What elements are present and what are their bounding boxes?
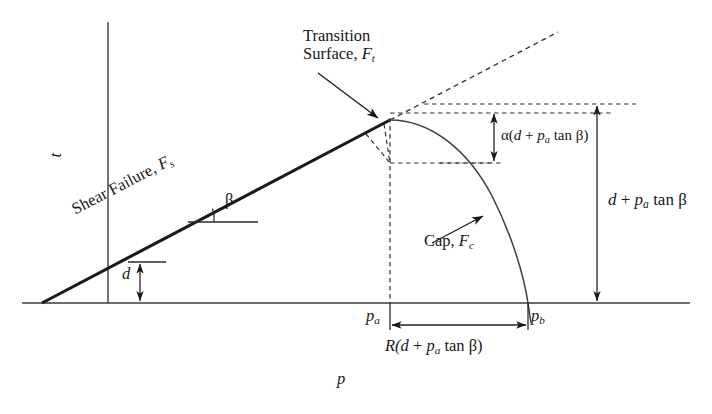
transition-surface-subscript: t <box>372 53 375 65</box>
r-p: p <box>426 336 434 355</box>
transition-surface-symbol: F <box>362 44 372 63</box>
pb-symbol: p <box>531 306 539 325</box>
beta-angle-label: β <box>225 191 233 209</box>
cap-symbol: F <box>459 231 469 250</box>
alpha-close: ) <box>583 127 588 143</box>
cap-label: Cap, Fc <box>424 232 474 252</box>
transition-leader-arrow <box>318 73 378 118</box>
height-dimension-label: d + pa tan β <box>608 190 687 212</box>
yield-surface-figure: Transition Surface, Ft Shear Failure, Fs… <box>0 0 712 414</box>
height-plus: + <box>617 190 635 209</box>
shear-line-extension-dashed <box>390 32 558 120</box>
transition-surface-label-line2: Surface, Ft <box>303 45 375 65</box>
pa-subscript: a <box>374 314 380 326</box>
transition-surface-label: Transition Surface, Ft <box>303 27 375 65</box>
transition-radius-dashed-a <box>384 124 390 163</box>
transition-surface-prefix: Surface, <box>303 44 362 63</box>
pb-subscript: b <box>539 314 545 326</box>
pb-label: pb <box>531 307 545 327</box>
transition-radius-dashed-b <box>366 134 390 163</box>
cap-prefix: Cap, <box>424 231 459 250</box>
p-axis-label: p <box>337 370 345 388</box>
height-p: p <box>635 190 644 209</box>
cap-subscript: c <box>469 239 474 251</box>
transition-surface-label-line1: Transition <box>303 27 375 45</box>
pa-symbol: p <box>366 306 374 325</box>
cap-curve <box>388 120 531 323</box>
r-dimension-label: R(d + pa tan β) <box>385 337 483 357</box>
height-d: d <box>608 190 617 209</box>
alpha-p: p <box>537 127 545 143</box>
r-beta: β <box>469 336 477 355</box>
r-tan: tan <box>440 336 468 355</box>
r-close: ) <box>477 336 483 355</box>
alpha-dimension-label: α(d + pa tan β) <box>501 127 588 145</box>
r-plus: + <box>409 336 427 355</box>
r-d: d <box>401 336 409 355</box>
r-open: R( <box>385 336 401 355</box>
shear-failure-line <box>42 120 390 303</box>
height-beta: β <box>678 190 687 209</box>
alpha-open: α( <box>501 127 514 143</box>
alpha-tan: tan <box>550 127 576 143</box>
alpha-plus: + <box>521 127 537 143</box>
height-tan: tan <box>649 190 678 209</box>
pa-label: pa <box>366 307 380 327</box>
d-intercept-label: d <box>122 265 130 283</box>
beta-angle-arc <box>213 209 215 223</box>
t-axis-label: t <box>47 153 65 158</box>
